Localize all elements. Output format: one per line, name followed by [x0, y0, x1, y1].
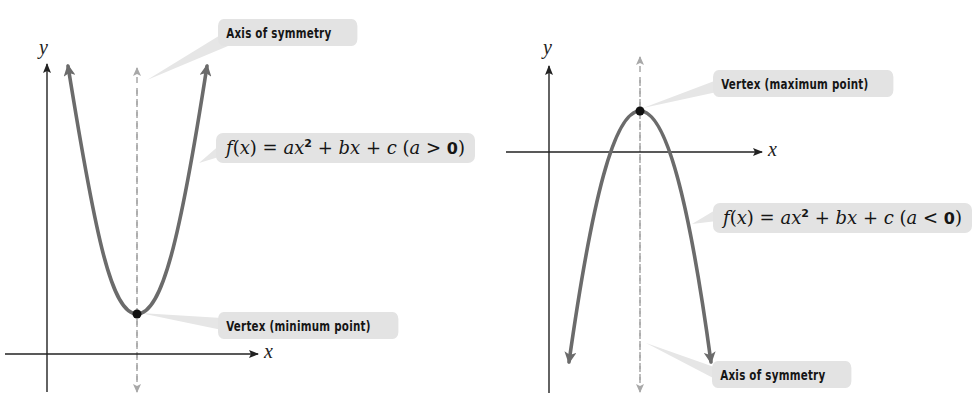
vertex-callout-pointer: [140, 313, 222, 330]
x-axis-label: x: [264, 340, 273, 363]
parabola-curve: [569, 111, 640, 362]
vertex-minimum-callout: Vertex (minimum point): [218, 312, 398, 339]
left-graph: [5, 34, 258, 392]
vertex-point: [133, 310, 142, 319]
axis-callout-pointer: [147, 34, 228, 80]
formula-callout: f(x) = ax2 + bx + c (a > 0): [216, 133, 475, 163]
vertex-point: [636, 107, 645, 116]
vertex-maximum-callout: Vertex (maximum point): [713, 70, 893, 97]
axis-of-symmetry-callout: Axis of symmetry: [218, 19, 357, 46]
y-axis-label: y: [39, 36, 48, 59]
y-axis-label: y: [543, 36, 552, 59]
formula-callout: f(x) = ax2 + bx + c (a < 0): [713, 203, 972, 233]
x-axis-label: x: [768, 138, 777, 161]
vertex-callout-pointer: [643, 80, 717, 108]
parabola-curve: [68, 66, 137, 314]
axis-of-symmetry-callout: Axis of symmetry: [712, 361, 851, 388]
axis-callout-pointer: [646, 343, 717, 380]
